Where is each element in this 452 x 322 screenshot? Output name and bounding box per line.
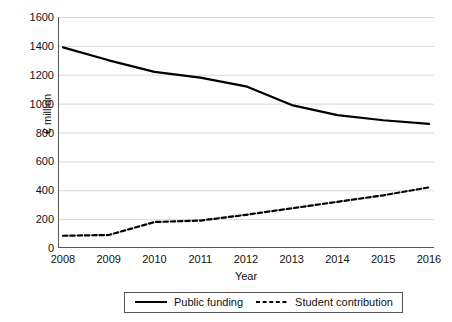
series-line (63, 187, 429, 235)
x-axis-tick-label: 2014 (315, 253, 361, 265)
y-axis-tick-label: 1000 (12, 99, 54, 109)
y-axis-tick-labels: 02004006008001000120014001600 (8, 17, 54, 248)
x-axis-tick-label: 2015 (360, 253, 406, 265)
legend-label-public-funding: Public funding (174, 296, 243, 308)
y-axis-tick-label: 600 (12, 156, 54, 166)
x-axis-tick-label: 2012 (223, 253, 269, 265)
y-axis-tick-label: 1400 (12, 41, 54, 51)
x-axis-tick-label: 2010 (132, 253, 178, 265)
line-chart: € million 02004006008001000120014001600 … (0, 0, 452, 322)
legend-label-student-contribution: Student contribution (295, 296, 393, 308)
y-axis-tick-label: 1200 (12, 70, 54, 80)
x-axis-tick-label: 2011 (177, 253, 223, 265)
plot-area (58, 17, 434, 248)
legend-item-public-funding: Public funding (134, 296, 243, 308)
x-axis-tick-label: 2008 (40, 253, 86, 265)
y-axis-tick-label: 800 (12, 128, 54, 138)
chart-legend: Public funding Student contribution (124, 292, 403, 313)
x-axis-tick-label: 2016 (406, 253, 452, 265)
y-axis-tick-label: 0 (12, 243, 54, 253)
dashed-line-icon (255, 298, 289, 306)
y-axis-tick-label: 400 (12, 185, 54, 195)
x-axis-title: Year (58, 270, 434, 282)
x-axis-tick-labels: 200820092010201120122013201420152016 (58, 253, 434, 269)
y-axis-tick-label: 1600 (12, 12, 54, 22)
x-axis-tick-label: 2013 (269, 253, 315, 265)
series-line (63, 47, 429, 124)
x-axis-tick-label: 2009 (86, 253, 132, 265)
legend-item-student-contribution: Student contribution (255, 296, 393, 308)
y-axis-tick-label: 200 (12, 214, 54, 224)
solid-line-icon (134, 298, 168, 306)
